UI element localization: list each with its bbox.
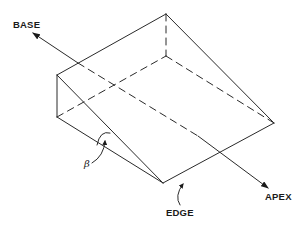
hidden-edge-back-bottom	[166, 56, 274, 123]
beta-angle-label: β	[84, 159, 90, 169]
edge-front-bottom-left-to-right	[57, 117, 163, 183]
apex-label: APEX	[265, 192, 292, 202]
edge-front-top-to-back-top	[57, 14, 166, 75]
edge-label-pointer	[178, 184, 183, 205]
axis-arrow-apex	[198, 136, 268, 188]
wedge-prism-diagram	[0, 0, 305, 226]
edge-back-top-to-back-right	[166, 14, 274, 123]
hidden-axis-segment	[78, 63, 198, 136]
edge-label: EDGE	[166, 208, 194, 218]
base-label: BASE	[13, 20, 40, 30]
edge-bottom-right-to-back-right	[163, 123, 274, 183]
hidden-edge-back-left	[57, 56, 166, 117]
axis-arrow-base	[33, 33, 78, 63]
angle-beta-pointer	[92, 141, 105, 163]
edge-front-top-to-front-bottom-right	[57, 75, 163, 183]
